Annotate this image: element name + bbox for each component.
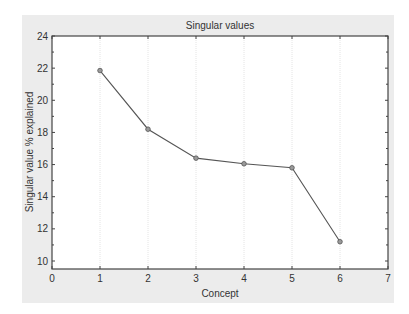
y-tick-label: 14	[37, 191, 49, 202]
data-point-marker	[98, 68, 103, 73]
y-tick-label: 24	[37, 31, 49, 42]
y-tick-label: 16	[37, 159, 49, 170]
x-tick-label: 7	[385, 273, 391, 284]
x-tick-labels: 01234567	[49, 273, 391, 284]
data-point-marker	[242, 161, 247, 166]
data-point-marker	[338, 239, 343, 244]
y-axis-label: Singular value % explained	[24, 92, 35, 213]
x-tick-label: 0	[49, 273, 55, 284]
y-tick-labels: 1012141618202224	[37, 31, 49, 267]
line-chart: Singular values 01234567 101214161820222…	[0, 0, 409, 314]
y-tick-label: 18	[37, 127, 49, 138]
x-tick-label: 1	[97, 273, 103, 284]
y-tick-label: 10	[37, 256, 49, 267]
data-point-marker	[146, 127, 151, 132]
x-axis-label: Concept	[201, 288, 238, 299]
x-tick-label: 5	[289, 273, 295, 284]
data-point-marker	[194, 156, 199, 161]
x-tick-label: 3	[193, 273, 199, 284]
y-tick-label: 20	[37, 95, 49, 106]
x-tick-label: 6	[337, 273, 343, 284]
x-tick-label: 4	[241, 273, 247, 284]
y-tick-label: 22	[37, 63, 49, 74]
x-tick-label: 2	[145, 273, 151, 284]
data-point-marker	[290, 165, 295, 170]
y-tick-label: 12	[37, 223, 49, 234]
chart-title: Singular values	[186, 20, 254, 31]
